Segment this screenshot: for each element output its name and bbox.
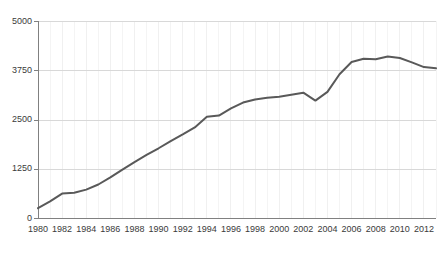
x-axis-tick-label: 1994	[195, 225, 219, 234]
axis-lines	[38, 21, 436, 219]
x-axis-tick-label: 2010	[388, 225, 412, 234]
y-axis-tick-label: 3750	[0, 66, 32, 75]
vertical-gridlines	[50, 21, 436, 218]
x-axis-tick-label: 1980	[26, 225, 50, 234]
x-axis-tick-label: 1996	[219, 225, 243, 234]
x-axis-tick-label: 1982	[50, 225, 74, 234]
x-axis-tick-label: 2012	[412, 225, 436, 234]
x-axis-tick-label: 2004	[315, 225, 339, 234]
line-chart: 01250250037505000 1980198219841986198819…	[0, 0, 448, 254]
x-axis-tick-label: 1992	[171, 225, 195, 234]
x-axis-tick-label: 2006	[340, 225, 364, 234]
x-axis-tick-label: 2008	[364, 225, 388, 234]
x-axis-tick-label: 1998	[243, 225, 267, 234]
x-axis-tick-label: 2002	[291, 225, 315, 234]
y-axis-tick-label: 0	[0, 214, 32, 223]
y-axis-tick-label: 1250	[0, 164, 32, 173]
data-line-series-1	[38, 56, 436, 208]
x-axis-tick-label: 1984	[74, 225, 98, 234]
y-axis-tick-label: 5000	[0, 17, 32, 26]
plot-canvas	[0, 0, 448, 254]
horizontal-gridlines	[38, 22, 436, 170]
x-axis-tick-label: 1986	[98, 225, 122, 234]
x-axis-tick-label: 2000	[267, 225, 291, 234]
x-axis-tick-label: 1988	[122, 225, 146, 234]
y-axis-ticks	[34, 22, 38, 219]
y-axis-tick-label: 2500	[0, 115, 32, 124]
x-axis-tick-label: 1990	[147, 225, 171, 234]
